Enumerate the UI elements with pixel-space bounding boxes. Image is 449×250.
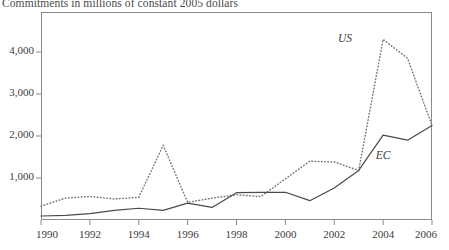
series-label-us: US: [338, 32, 352, 44]
y-axis-tick-label: 2,000: [0, 128, 34, 140]
chart-figure: Commitments in millions of constant 2005…: [0, 0, 449, 250]
x-axis-tick-label: 1992: [70, 228, 110, 240]
series-line-us: [41, 39, 432, 206]
series-label-ec: EC: [376, 149, 391, 161]
x-axis-tick-label: 1994: [119, 228, 159, 240]
series-lines: [41, 39, 432, 216]
series-line-ec: [41, 126, 432, 217]
x-axis-tick-label: 2004: [363, 228, 403, 240]
x-axis-tick-label: 2006: [406, 228, 446, 240]
x-axis-tick-label: 2000: [265, 228, 305, 240]
x-axis-tick-label: 1996: [168, 228, 208, 240]
x-axis-tick-label: 2002: [314, 228, 354, 240]
chart-plot-svg: [0, 0, 449, 250]
axis-ticks: [36, 52, 432, 225]
x-axis-tick-label: 1998: [217, 228, 257, 240]
y-axis-tick-label: 4,000: [0, 44, 34, 56]
x-axis-tick-label: 1990: [27, 228, 67, 240]
y-axis-tick-label: 3,000: [0, 86, 34, 98]
y-axis-tick-label: 1,000: [0, 170, 34, 182]
